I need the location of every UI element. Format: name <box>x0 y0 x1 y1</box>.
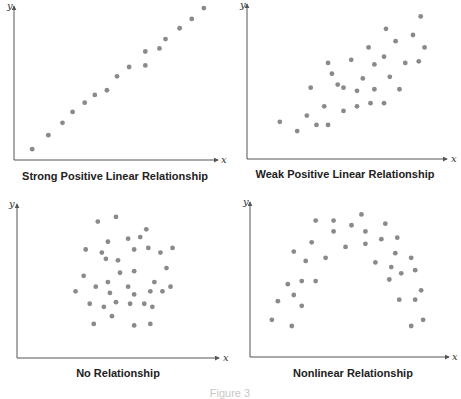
panel-weak-positive: y x Weak Positive Linear Relationship <box>239 0 457 180</box>
data-point <box>177 26 182 31</box>
data-point <box>309 240 314 245</box>
data-point <box>60 120 65 125</box>
data-point <box>366 45 371 50</box>
data-point <box>201 6 206 11</box>
data-point <box>341 85 346 90</box>
data-point <box>303 259 308 264</box>
data-point <box>289 324 294 329</box>
data-point <box>389 265 394 270</box>
data-point <box>355 88 360 93</box>
data-point <box>143 63 148 68</box>
data-point <box>163 37 168 42</box>
panel-strong-positive: y x Strong Positive Linear Relationship <box>6 0 227 182</box>
data-point <box>132 269 137 274</box>
data-point <box>170 246 175 251</box>
data-point <box>132 247 137 252</box>
data-point <box>95 219 100 224</box>
data-point <box>343 245 348 250</box>
data-point <box>152 280 157 285</box>
x-axis-label: x <box>223 352 229 363</box>
data-point <box>335 82 340 87</box>
data-point <box>148 322 153 327</box>
data-point <box>114 215 119 220</box>
data-point <box>331 218 336 223</box>
data-point <box>403 61 408 66</box>
data-point <box>110 314 115 319</box>
data-point <box>395 235 400 240</box>
data-point <box>291 249 296 254</box>
data-point <box>275 299 280 304</box>
data-point <box>285 282 290 287</box>
data-point <box>397 87 402 92</box>
data-point <box>143 49 148 54</box>
data-point <box>308 85 313 90</box>
data-point <box>387 74 392 79</box>
data-point <box>360 76 365 81</box>
data-point <box>411 33 416 38</box>
data-point <box>382 54 387 59</box>
data-point <box>299 279 304 284</box>
data-point <box>160 289 165 294</box>
figure-caption: Figure 3 <box>210 387 250 399</box>
data-point <box>46 133 51 138</box>
data-point <box>164 266 169 271</box>
data-point <box>148 289 153 294</box>
data-point <box>138 235 143 240</box>
data-point <box>409 255 414 260</box>
data-point <box>372 62 377 67</box>
data-point <box>114 300 119 305</box>
data-point <box>106 280 111 285</box>
data-point <box>157 46 162 51</box>
y-axis-label: y <box>8 198 15 209</box>
y-axis-label: y <box>242 196 249 207</box>
data-point <box>421 317 426 322</box>
data-point <box>322 104 327 109</box>
data-point <box>368 101 373 106</box>
x-axis-label: x <box>451 153 457 164</box>
data-point <box>349 57 354 62</box>
data-point <box>341 109 346 114</box>
data-point <box>291 293 296 298</box>
panel-title: Strong Positive Linear Relationship <box>22 170 208 182</box>
data-point <box>83 247 88 252</box>
data-point <box>30 147 35 152</box>
panel-title: Weak Positive Linear Relationship <box>256 168 435 180</box>
data-point <box>331 229 336 234</box>
y-axis-label: y <box>239 0 246 10</box>
x-axis-label: x <box>221 154 227 165</box>
data-point <box>142 301 147 306</box>
data-point <box>413 297 418 302</box>
data-point <box>393 39 398 44</box>
data-point <box>349 223 354 228</box>
data-point <box>189 17 194 22</box>
data-point <box>409 324 414 329</box>
data-point <box>103 256 108 261</box>
data-point <box>382 101 387 106</box>
data-point <box>81 273 86 278</box>
data-point <box>73 289 78 294</box>
data-point <box>330 71 335 76</box>
data-point <box>313 218 318 223</box>
data-point <box>116 258 121 263</box>
data-point <box>93 284 98 289</box>
data-point <box>418 14 423 19</box>
data-point <box>115 74 120 79</box>
data-point <box>359 212 364 217</box>
data-point <box>144 227 149 232</box>
panel-title: Nonlinear Relationship <box>293 367 413 379</box>
x-axis-label: x <box>452 351 458 362</box>
data-point <box>132 292 137 297</box>
data-point <box>326 123 331 128</box>
figure-scatter-panels: y x Strong Positive Linear Relationship … <box>0 0 461 399</box>
data-point <box>326 61 331 66</box>
data-point <box>91 322 96 327</box>
data-point <box>299 303 304 308</box>
data-point <box>132 323 137 328</box>
data-point <box>363 229 368 234</box>
data-point <box>269 317 274 322</box>
data-point <box>416 59 421 64</box>
data-point <box>70 110 75 115</box>
data-point <box>127 65 132 70</box>
data-point <box>419 288 424 293</box>
data-point <box>168 284 173 289</box>
